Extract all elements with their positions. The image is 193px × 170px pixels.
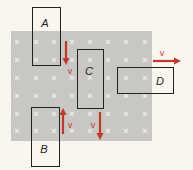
field-into-page-icon: × (142, 126, 147, 136)
field-into-page-icon: × (87, 109, 92, 119)
field-into-page-icon: × (105, 37, 110, 47)
field-into-page-icon: × (87, 37, 92, 47)
field-into-page-icon: × (33, 37, 38, 47)
field-into-page-icon: × (51, 91, 56, 101)
arrow-head-icon (174, 58, 181, 65)
field-into-page-icon: × (105, 73, 110, 83)
field-into-page-icon: × (33, 126, 38, 136)
loop-label: C (85, 65, 93, 77)
field-into-page-icon: × (105, 55, 110, 65)
field-into-page-icon: × (123, 109, 128, 119)
field-into-page-icon: × (14, 73, 19, 83)
loop-label: D (156, 75, 164, 87)
field-into-page-icon: × (123, 126, 128, 136)
field-into-page-icon: × (123, 73, 128, 83)
field-into-page-icon: × (33, 109, 38, 119)
field-into-page-icon: × (142, 91, 147, 101)
field-into-page-icon: × (51, 109, 56, 119)
velocity-label: v (160, 48, 165, 58)
field-into-page-icon: × (51, 55, 56, 65)
field-into-page-icon: × (69, 37, 74, 47)
field-into-page-icon: × (123, 37, 128, 47)
field-into-page-icon: × (33, 55, 38, 65)
diagram-canvas: ××××××××××××××××××××××××××××××××××××××××… (0, 0, 193, 170)
field-into-page-icon: × (123, 55, 128, 65)
velocity-label: v (68, 120, 73, 130)
field-into-page-icon: × (105, 126, 110, 136)
field-into-page-icon: × (69, 109, 74, 119)
loop-label: A (40, 17, 48, 29)
field-into-page-icon: × (105, 91, 110, 101)
field-into-page-icon: × (69, 55, 74, 65)
field-into-page-icon: × (33, 91, 38, 101)
loop-label: B (40, 143, 47, 155)
velocity-label: v (91, 120, 96, 130)
field-into-page-icon: × (14, 91, 19, 101)
field-into-page-icon: × (14, 55, 19, 65)
field-into-page-icon: × (51, 37, 56, 47)
field-into-page-icon: × (142, 37, 147, 47)
velocity-label: v (68, 66, 73, 76)
field-into-page-icon: × (14, 109, 19, 119)
field-into-page-icon: × (142, 55, 147, 65)
field-into-page-icon: × (142, 73, 147, 83)
field-into-page-icon: × (142, 109, 147, 119)
field-into-page-icon: × (51, 73, 56, 83)
field-into-page-icon: × (87, 91, 92, 101)
magnetic-field-diagram: ××××××××××××××××××××××××××××××××××××××××… (0, 0, 193, 170)
field-into-page-icon: × (14, 37, 19, 47)
field-into-page-icon: × (69, 91, 74, 101)
field-into-page-icon: × (105, 109, 110, 119)
field-into-page-icon: × (14, 126, 19, 136)
field-into-page-icon: × (123, 91, 128, 101)
field-into-page-icon: × (87, 55, 92, 65)
field-into-page-icon: × (33, 73, 38, 83)
field-into-page-icon: × (51, 126, 56, 136)
